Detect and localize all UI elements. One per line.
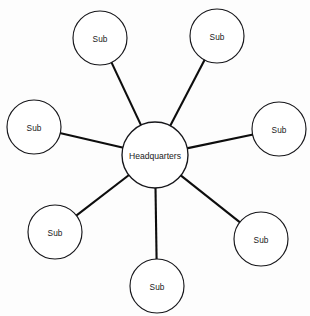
node-sub-bottom-left[interactable]: Sub (28, 205, 82, 259)
edge-hub-sub-bottom (155, 187, 156, 259)
edge-hub-sub-right (187, 134, 253, 148)
node-sub-bottom[interactable]: Sub (130, 259, 184, 313)
edge-hub-sub-bottom-left (76, 175, 129, 216)
node-label-headquarters: Headquarters (129, 151, 181, 161)
node-sub-right[interactable]: Sub (252, 102, 306, 156)
node-sub-left[interactable]: Sub (7, 100, 61, 154)
node-label-sub-bottom: Sub (150, 282, 165, 292)
star-network-diagram: SubSubSubSubSubSubSubHeadquarters (0, 0, 310, 316)
node-label-sub-top-left: Sub (93, 34, 108, 44)
node-label-sub-bottom-left: Sub (48, 228, 63, 238)
node-sub-bottom-right[interactable]: Sub (234, 212, 288, 266)
node-label-sub-top-right: Sub (210, 32, 225, 42)
node-label-sub-left: Sub (27, 123, 42, 133)
node-sub-top-right[interactable]: Sub (190, 9, 244, 63)
edge-hub-sub-top-left (111, 62, 141, 126)
edge-hub-sub-left (60, 133, 124, 148)
node-layer: SubSubSubSubSubSubSubHeadquarters (7, 9, 306, 313)
node-label-sub-right: Sub (272, 125, 287, 135)
node-sub-top-left[interactable]: Sub (73, 11, 127, 65)
edge-hub-sub-top-right (170, 59, 205, 126)
edge-hub-sub-bottom-right (180, 175, 240, 222)
node-label-sub-bottom-right: Sub (254, 235, 269, 245)
diagram-svg-canvas: SubSubSubSubSubSubSubHeadquarters (0, 0, 310, 316)
node-headquarters[interactable]: Headquarters (122, 122, 188, 188)
